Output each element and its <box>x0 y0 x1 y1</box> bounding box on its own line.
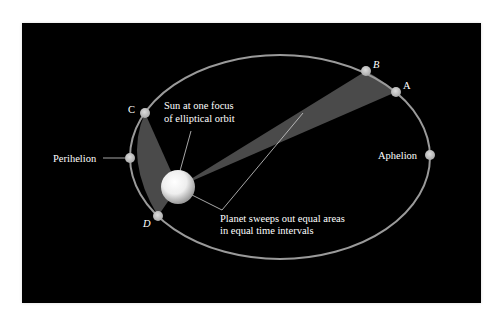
point-a-label: A <box>403 80 411 91</box>
perihelion-label: Perihelion <box>53 153 97 164</box>
sun-label-line2: of elliptical orbit <box>164 113 235 124</box>
planet-position-b <box>361 66 371 76</box>
point-b-label: B <box>373 59 380 70</box>
sweep-label-line2: in equal time intervals <box>220 225 314 236</box>
sun-label-line1: Sun at one focus <box>164 100 234 111</box>
sun-leader-line <box>180 131 191 171</box>
planet-position-c <box>140 108 150 118</box>
planet-position-perihelion <box>125 153 135 163</box>
planet-position-aphelion <box>425 150 435 160</box>
point-c-label: C <box>128 104 135 115</box>
aphelion-label: Aphelion <box>378 150 418 161</box>
sweep-label-line1: Planet sweeps out equal areas <box>220 213 345 224</box>
planet-position-a <box>391 87 401 97</box>
sun <box>161 170 195 204</box>
orbit-diagram: Sun at one focus of elliptical orbit Per… <box>0 0 499 316</box>
planet-position-d <box>153 211 163 221</box>
swept-area-ab <box>178 71 396 187</box>
point-d-label: D <box>142 218 151 229</box>
